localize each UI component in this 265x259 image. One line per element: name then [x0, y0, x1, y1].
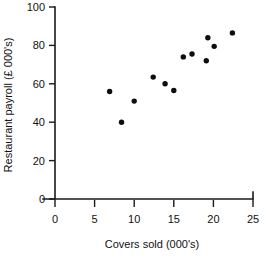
axis-tick-labels: 0204060801000510152025: [27, 1, 259, 225]
data-point: [107, 89, 112, 94]
data-point: [119, 120, 124, 125]
x-tick-label: 25: [247, 213, 259, 225]
x-tick-label: 10: [128, 213, 140, 225]
data-point: [181, 54, 186, 59]
data-point: [132, 98, 137, 103]
x-tick-label: 15: [168, 213, 180, 225]
data-point: [162, 81, 167, 86]
y-tick-label: 20: [33, 155, 45, 167]
x-tick-label: 20: [207, 213, 219, 225]
y-tick-label: 0: [39, 193, 45, 205]
axis-ticks: [49, 7, 253, 207]
y-axis-title: Restaurant payroll (£ 000's): [2, 38, 14, 173]
axes: [43, 7, 253, 199]
y-tick-label: 100: [27, 1, 45, 13]
data-point: [205, 35, 210, 40]
data-point: [171, 88, 176, 93]
data-point: [189, 51, 194, 56]
x-tick-label: 0: [52, 213, 58, 225]
plot-area: 0204060801000510152025 Covers sold (000'…: [0, 0, 265, 259]
x-tick-label: 5: [92, 213, 98, 225]
data-points: [107, 30, 235, 125]
y-tick-label: 80: [33, 39, 45, 51]
x-axis-title: Covers sold (000's): [105, 238, 199, 250]
data-point: [230, 30, 235, 35]
data-point: [211, 44, 216, 49]
scatter-chart: 0204060801000510152025 Covers sold (000'…: [0, 0, 265, 259]
y-tick-label: 40: [33, 116, 45, 128]
data-point: [204, 58, 209, 63]
data-point: [151, 74, 156, 79]
y-tick-label: 60: [33, 78, 45, 90]
